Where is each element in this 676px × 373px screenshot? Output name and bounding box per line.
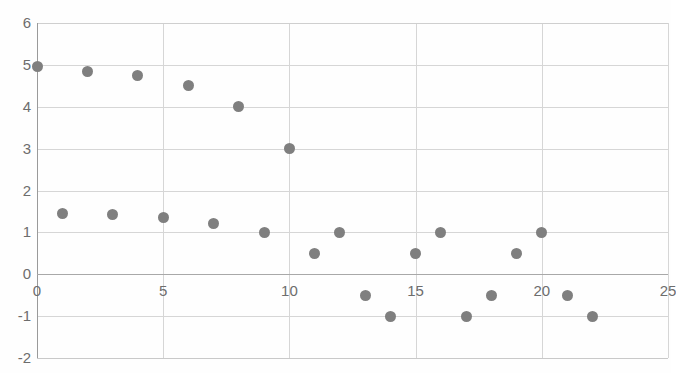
- data-point: [562, 290, 573, 301]
- y-tick-label--1: -1: [0, 308, 31, 323]
- data-point: [107, 209, 118, 220]
- data-point: [587, 311, 598, 322]
- y-tick-label-2: 2: [0, 183, 31, 198]
- data-point: [183, 80, 194, 91]
- data-point: [334, 227, 345, 238]
- data-point: [486, 290, 497, 301]
- data-point: [536, 227, 547, 238]
- data-point: [309, 248, 320, 259]
- data-point: [435, 227, 446, 238]
- data-point: [259, 227, 270, 238]
- data-point: [511, 248, 522, 259]
- data-point: [360, 290, 371, 301]
- plot-frame-bottom: [37, 358, 668, 359]
- data-point: [284, 143, 295, 154]
- data-point: [385, 311, 396, 322]
- data-point: [208, 218, 219, 229]
- data-point: [32, 61, 43, 72]
- y-tick-label-1: 1: [0, 224, 31, 239]
- data-point: [233, 101, 244, 112]
- data-point: [57, 208, 68, 219]
- data-point: [461, 311, 472, 322]
- y-tick-label-5: 5: [0, 57, 31, 72]
- y-tick-label-6: 6: [0, 15, 31, 30]
- data-point: [132, 70, 143, 81]
- data-point: [82, 66, 93, 77]
- y-tick-label--2: -2: [0, 350, 31, 365]
- plot-area: [37, 23, 668, 358]
- y-tick-label-0: 0: [0, 266, 31, 281]
- data-point: [158, 212, 169, 223]
- gridline-x-25: [668, 23, 669, 358]
- y-tick-label-3: 3: [0, 141, 31, 156]
- y-tick-label-4: 4: [0, 99, 31, 114]
- data-point: [410, 248, 421, 259]
